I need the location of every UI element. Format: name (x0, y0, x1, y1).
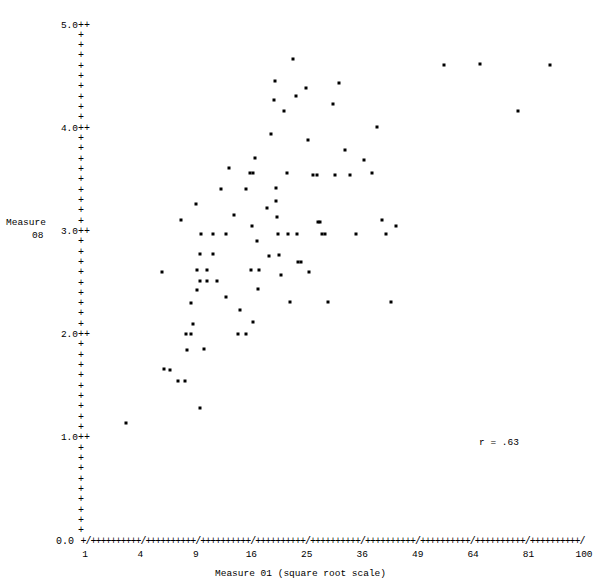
data-points-layer (0, 0, 601, 585)
data-point (184, 380, 187, 383)
data-point (168, 368, 171, 371)
data-point (338, 81, 341, 84)
data-point (200, 233, 203, 236)
data-point (280, 273, 283, 276)
data-point (287, 233, 290, 236)
data-point (252, 171, 255, 174)
data-point (272, 99, 275, 102)
data-point (395, 225, 398, 228)
data-point (203, 348, 206, 351)
data-point (233, 213, 236, 216)
scatter-plot-figure: 5.0+++++++++++4.0+++++++++++3.0+++++++++… (0, 0, 601, 585)
data-point (195, 268, 198, 271)
data-point (180, 219, 183, 222)
data-point (296, 233, 299, 236)
data-point (275, 215, 278, 218)
data-point (276, 233, 279, 236)
data-point (124, 422, 127, 425)
data-point (478, 63, 481, 66)
data-point (274, 79, 277, 82)
data-point (370, 171, 373, 174)
data-point (211, 253, 214, 256)
data-point (177, 380, 180, 383)
data-point (275, 187, 278, 190)
data-point (244, 188, 247, 191)
data-point (225, 233, 228, 236)
data-point (443, 64, 446, 67)
data-point (354, 233, 357, 236)
data-point (332, 103, 335, 106)
data-point (269, 133, 272, 136)
data-point (205, 268, 208, 271)
data-point (206, 279, 209, 282)
data-point (192, 323, 195, 326)
data-point (516, 109, 519, 112)
data-point (185, 332, 188, 335)
data-point (283, 109, 286, 112)
data-point (265, 206, 268, 209)
data-point (343, 148, 346, 151)
data-point (163, 367, 166, 370)
data-point (295, 95, 298, 98)
data-point (267, 255, 270, 258)
data-point (194, 202, 197, 205)
data-point (277, 254, 280, 257)
data-point (160, 270, 163, 273)
data-point (219, 188, 222, 191)
data-point (307, 138, 310, 141)
data-point (326, 300, 329, 303)
data-point (304, 86, 307, 89)
data-point (384, 233, 387, 236)
data-point (348, 173, 351, 176)
data-point (199, 253, 202, 256)
data-point (275, 200, 278, 203)
data-point (195, 289, 198, 292)
data-point (380, 219, 383, 222)
data-point (307, 270, 310, 273)
data-point (286, 171, 289, 174)
data-point (257, 268, 260, 271)
data-point (225, 296, 228, 299)
data-point (256, 239, 259, 242)
data-point (186, 349, 189, 352)
data-point (319, 221, 322, 224)
data-point (198, 406, 201, 409)
data-point (212, 233, 215, 236)
data-point (190, 301, 193, 304)
data-point (362, 159, 365, 162)
data-point (227, 167, 230, 170)
data-point (288, 300, 291, 303)
data-point (334, 173, 337, 176)
data-point (311, 173, 314, 176)
data-point (324, 233, 327, 236)
data-point (238, 308, 241, 311)
data-point (292, 58, 295, 61)
data-point (252, 321, 255, 324)
data-point (249, 268, 252, 271)
data-point (215, 279, 218, 282)
data-point (315, 173, 318, 176)
data-point (257, 288, 260, 291)
data-point (251, 225, 254, 228)
data-point (390, 300, 393, 303)
data-point (299, 261, 302, 264)
data-point (245, 332, 248, 335)
data-point (237, 332, 240, 335)
data-point (198, 279, 201, 282)
data-point (375, 126, 378, 129)
data-point (190, 332, 193, 335)
data-point (254, 157, 257, 160)
data-point (548, 64, 551, 67)
